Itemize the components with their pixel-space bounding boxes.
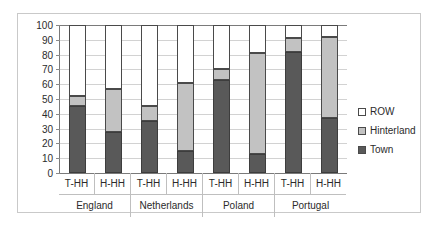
- y-axis-label-0: 0: [47, 169, 53, 179]
- bar-poland-t-hh: [213, 25, 230, 173]
- bar-segment-town: [249, 154, 266, 173]
- bar-netherlands-h-hh: [177, 25, 194, 173]
- subcategory-label-6: T-HH: [275, 173, 311, 195]
- gridline-90: 90: [60, 40, 347, 41]
- bar-segment-hinterland: [285, 38, 302, 51]
- y-axis-label-70: 70: [42, 65, 53, 75]
- gridline-60: 60: [60, 84, 347, 85]
- y-axis-label-90: 90: [42, 36, 53, 46]
- bar-segment-hinterland: [213, 69, 230, 79]
- group-label-row: EnglandNetherlandsPolandPortugal: [59, 195, 346, 217]
- bar-england-h-hh: [105, 25, 122, 173]
- subcategory-label-5: H-HH: [239, 173, 275, 195]
- chart-frame: 1009080706050403020100 T-HHH-HHT-HHH-HHT…: [17, 13, 421, 213]
- bar-segment-row: [249, 25, 266, 53]
- y-axis-label-20: 20: [42, 139, 53, 149]
- legend-swatch-town-icon: [358, 146, 366, 154]
- bar-segment-row: [177, 25, 194, 83]
- y-axis-label-50: 50: [42, 95, 53, 105]
- gridline-10: 10: [60, 158, 347, 159]
- bar-segment-town: [69, 106, 86, 173]
- y-tick-90: [56, 40, 60, 41]
- bar-segment-row: [105, 25, 122, 89]
- gridline-40: 40: [60, 114, 347, 115]
- bar-segment-town: [141, 121, 158, 173]
- bar-segment-row: [213, 25, 230, 69]
- legend-item-row[interactable]: ROW: [358, 102, 443, 121]
- y-axis-label-10: 10: [42, 154, 53, 164]
- bar-segment-town: [213, 80, 230, 173]
- y-axis-label-100: 100: [36, 21, 53, 31]
- bar-segment-town: [177, 151, 194, 173]
- y-tick-40: [56, 114, 60, 115]
- subcategory-label-4: T-HH: [203, 173, 239, 195]
- subcategory-label-3: H-HH: [167, 173, 203, 195]
- bar-segment-hinterland: [69, 96, 86, 106]
- y-axis-label-40: 40: [42, 110, 53, 120]
- bar-segment-town: [321, 118, 338, 173]
- gridline-70: 70: [60, 69, 347, 70]
- y-axis-label-60: 60: [42, 80, 53, 90]
- legend-label-row: ROW: [370, 107, 394, 117]
- bar-segment-town: [105, 132, 122, 173]
- gridline-30: 30: [60, 129, 347, 130]
- group-label-poland: Poland: [203, 195, 275, 217]
- bar-netherlands-t-hh: [141, 25, 158, 173]
- subcategory-label-2: T-HH: [131, 173, 167, 195]
- subcategory-label-7: H-HH: [311, 173, 346, 195]
- y-tick-10: [56, 158, 60, 159]
- bar-portugal-t-hh: [285, 25, 302, 173]
- bar-segment-town: [285, 52, 302, 173]
- category-axis: T-HHH-HHT-HHH-HHT-HHH-HHT-HHH-HH England…: [59, 173, 346, 217]
- subcategory-label-1: H-HH: [95, 173, 131, 195]
- chart-legend: ROWHinterlandTown: [358, 102, 443, 159]
- y-tick-50: [56, 99, 60, 100]
- legend-label-hinterland: Hinterland: [370, 126, 416, 136]
- y-tick-70: [56, 69, 60, 70]
- bar-segment-hinterland: [249, 53, 266, 154]
- legend-swatch-hinterland-icon: [358, 127, 366, 135]
- y-tick-60: [56, 84, 60, 85]
- bar-segment-hinterland: [177, 83, 194, 151]
- bar-poland-h-hh: [249, 25, 266, 173]
- group-label-portugal: Portugal: [275, 195, 346, 217]
- gridline-50: 50: [60, 99, 347, 100]
- y-tick-30: [56, 129, 60, 130]
- plot-area: 1009080706050403020100: [59, 25, 346, 173]
- subcategory-label-row: T-HHH-HHT-HHH-HHT-HHH-HHT-HHH-HH: [59, 173, 346, 195]
- group-label-england: England: [59, 195, 131, 217]
- bar-segment-row: [321, 25, 338, 37]
- bar-segment-hinterland: [141, 106, 158, 121]
- gridline-20: 20: [60, 143, 347, 144]
- group-label-netherlands: Netherlands: [131, 195, 203, 217]
- y-tick-100: [56, 25, 60, 26]
- bar-segment-row: [285, 25, 302, 38]
- bar-segment-hinterland: [105, 89, 122, 132]
- bar-segment-hinterland: [321, 37, 338, 118]
- y-axis-label-30: 30: [42, 125, 53, 135]
- bar-england-t-hh: [69, 25, 86, 173]
- legend-item-town[interactable]: Town: [358, 140, 443, 159]
- bar-segment-row: [141, 25, 158, 106]
- bar-portugal-h-hh: [321, 25, 338, 173]
- gridline-100: 100: [60, 25, 347, 26]
- legend-item-hinterland[interactable]: Hinterland: [358, 121, 443, 140]
- y-tick-20: [56, 143, 60, 144]
- bar-segment-row: [69, 25, 86, 96]
- y-axis-label-80: 80: [42, 51, 53, 61]
- subcategory-label-0: T-HH: [59, 173, 95, 195]
- gridline-80: 80: [60, 55, 347, 56]
- legend-swatch-row-icon: [358, 108, 366, 116]
- y-tick-80: [56, 55, 60, 56]
- legend-label-town: Town: [370, 145, 393, 155]
